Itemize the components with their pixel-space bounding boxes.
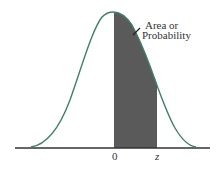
axis-label-z: z <box>154 150 160 162</box>
axis-label-zero: 0 <box>112 150 118 162</box>
normal-distribution-diagram: Area or Probability 0 z <box>0 0 222 171</box>
annotation-line2: Probability <box>142 29 191 41</box>
